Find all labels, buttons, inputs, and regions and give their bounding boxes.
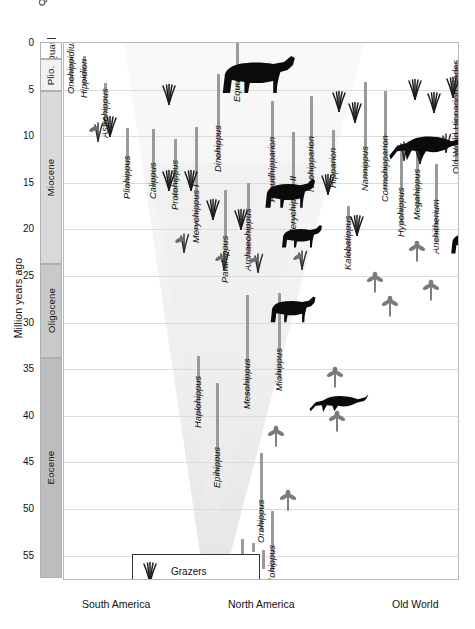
- legend-item-grazers: Grazers: [141, 561, 251, 580]
- epoch-band-label: Oligocene: [46, 288, 57, 333]
- taxon-label: Mesohippus: [242, 359, 252, 410]
- plot-area: OnohippidiumHippidionAstrohippusPliohipp…: [63, 42, 459, 580]
- y-tick-30: 30: [8, 316, 34, 327]
- diet-icon-browsers: [381, 295, 399, 317]
- taxon-label: Megahippus: [412, 169, 422, 220]
- horse-silhouette: [307, 387, 369, 415]
- y-tick-5: 5: [8, 83, 34, 94]
- diet-icon-grazers: [101, 115, 119, 137]
- horse-silhouette: [386, 123, 459, 165]
- diet-icon-mixed: [292, 248, 310, 270]
- taxon-label: Calippus: [148, 163, 158, 200]
- y-tick-0: 0: [8, 37, 34, 48]
- taxon-range-bar: [262, 550, 265, 569]
- diet-icon-grazers: [204, 198, 222, 220]
- taxon-range-bar: [252, 543, 255, 552]
- taxon-label: Miohippus: [274, 348, 284, 391]
- epoch-band-miocene: Miocene: [40, 91, 62, 263]
- y-tick-50: 50: [8, 503, 34, 514]
- epoch-band-label: Quat.: [46, 42, 57, 59]
- taxon-label: Merychippus I: [191, 185, 201, 244]
- horse-silhouette: [258, 175, 320, 211]
- gridline-30: [64, 323, 458, 324]
- horse-silhouette: [445, 226, 459, 256]
- epoch-column: Quat.Plio.MioceneOligoceneEocene: [40, 42, 62, 578]
- diet-icon-grazers: [232, 208, 250, 230]
- legend-item-label: Grazers: [171, 566, 207, 577]
- horse-silhouette: [212, 51, 302, 97]
- diet-icon-browsers: [267, 425, 285, 447]
- diet-icon-grazers: [444, 76, 459, 98]
- y-tick-35: 35: [8, 363, 34, 374]
- diet-icon-grazers: [160, 83, 178, 105]
- diet-icon-browsers: [408, 240, 426, 262]
- taxon-label: Hippidion: [79, 59, 89, 98]
- y-tick-20: 20: [8, 223, 34, 234]
- gridline-55: [64, 556, 458, 557]
- diet-icon-mixed: [174, 231, 192, 253]
- diet-icon-mixed: [214, 249, 232, 271]
- gridline-40: [64, 416, 458, 417]
- y-tick-15: 15: [8, 176, 34, 187]
- taxon-label: Hypohippus: [396, 187, 406, 237]
- horse-evolution-figure: Million years ago 0510152025303540455055…: [0, 0, 475, 629]
- taxon-label: Dinohippus: [213, 124, 223, 171]
- gridline-35: [64, 369, 458, 370]
- taxon-label: Orohippus: [256, 499, 266, 542]
- quat-tick-dash: [47, 38, 56, 39]
- diet-icon-grazers: [182, 169, 200, 191]
- epoch-band-oligocene: Oligocene: [40, 264, 62, 358]
- taxon-label: Nannippus: [360, 146, 370, 191]
- diet-icon-grazers: [346, 101, 364, 123]
- epoch-band-quat-: Quat.: [40, 42, 62, 59]
- y-tick-10: 10: [8, 130, 34, 141]
- diet-icon-grazers: [141, 561, 167, 580]
- horse-silhouette: [276, 222, 326, 250]
- epoch-band-label: Eocene: [46, 451, 57, 485]
- diet-icon-mixed: [248, 251, 266, 273]
- taxon-label: Pliohippus: [122, 155, 132, 198]
- diet-icon-grazers: [160, 169, 178, 191]
- y-tick-25: 25: [8, 270, 34, 281]
- taxon-label: Epihippus: [212, 447, 222, 488]
- taxon-label: Eohippus: [267, 545, 277, 580]
- diet-icon-browsers: [422, 279, 440, 301]
- diet-icon-browsers: [366, 271, 384, 293]
- region-label-old-world: Old World: [392, 598, 439, 610]
- diet-icon-browsers: [279, 489, 297, 511]
- epoch-band-plio-: Plio.: [40, 59, 62, 92]
- y-tick-40: 40: [8, 409, 34, 420]
- y-tick-45: 45: [8, 456, 34, 467]
- diet-icon-grazers: [319, 173, 337, 195]
- epoch-band-label: Plio.: [45, 65, 56, 85]
- horse-silhouette: [264, 293, 320, 325]
- epoch-label-quat: Quat.: [36, 0, 47, 6]
- legend: Grazers Mixed Browsers: [132, 554, 260, 580]
- epoch-band-label: Miocene: [46, 159, 57, 197]
- region-label-south-america: South America: [82, 598, 150, 610]
- diet-icon-grazers: [348, 214, 366, 236]
- y-tick-55: 55: [8, 549, 34, 560]
- taxon-label: Anchitherium: [431, 199, 441, 254]
- diet-icon-grazers: [425, 91, 443, 113]
- taxon-label: Haplohippus: [193, 376, 203, 428]
- y-axis-ticks: 0510152025303540455055: [8, 0, 34, 629]
- epoch-band-eocene: Eocene: [40, 358, 62, 578]
- taxon-label: Onohippidium: [66, 42, 76, 94]
- region-label-north-america: North America: [228, 598, 295, 610]
- diet-icon-grazers: [406, 78, 424, 100]
- gridline-25: [64, 276, 458, 277]
- diet-icon-browsers: [326, 366, 344, 388]
